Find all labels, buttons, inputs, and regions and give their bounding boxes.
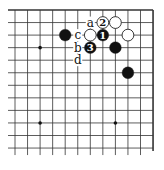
black-stone-1: 1 xyxy=(97,29,109,41)
star-point xyxy=(38,46,42,50)
stone-move-number: 3 xyxy=(87,42,94,53)
stone-move-number: 2 xyxy=(99,17,106,28)
black-stone xyxy=(59,29,71,41)
white-stone xyxy=(84,29,96,41)
point-label-d: d xyxy=(74,53,82,67)
black-stone-3: 3 xyxy=(84,42,96,54)
white-stone xyxy=(122,29,134,41)
star-point xyxy=(38,121,42,125)
star-point xyxy=(114,121,118,125)
point-label-a: a xyxy=(87,16,94,30)
stone-move-number: 1 xyxy=(99,30,106,41)
black-stone xyxy=(110,42,122,54)
white-stone-2: 2 xyxy=(97,17,109,29)
go-board-diagram: acbd 123 xyxy=(0,0,164,170)
black-stone xyxy=(122,67,134,79)
white-stone xyxy=(110,17,122,29)
